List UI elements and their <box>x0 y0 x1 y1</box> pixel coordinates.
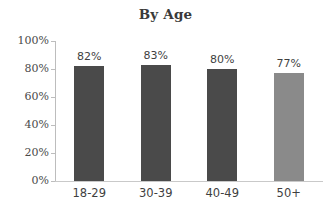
bar-value-label: 82% <box>77 50 101 63</box>
x-axis-category-label: 50+ <box>256 186 323 200</box>
y-axis-tick-mark <box>51 69 55 70</box>
bar-chart: By Age 0%20%40%60%80%100% 82%83%80%77% 1… <box>0 0 331 219</box>
y-axis-tick-label: 60% <box>5 90 49 103</box>
bar-value-label: 80% <box>210 53 234 66</box>
y-axis-tick-label: 80% <box>5 62 49 75</box>
x-axis-category-labels: 18-2930-3940-4950+ <box>56 186 322 210</box>
bar <box>274 73 304 181</box>
y-axis-tick-mark <box>51 97 55 98</box>
y-axis-tick-mark <box>51 181 55 182</box>
x-axis-category-label: 18-29 <box>56 186 123 200</box>
bar <box>141 65 171 181</box>
bar <box>74 66 104 181</box>
bar-value-label: 83% <box>144 49 168 62</box>
bar-group: 83% <box>123 41 190 181</box>
y-axis-tick-mark <box>51 153 55 154</box>
bar-group: 82% <box>56 41 123 181</box>
plot-area: 82%83%80%77% <box>56 41 322 181</box>
x-axis-category-label: 40-49 <box>189 186 256 200</box>
bar-value-label: 77% <box>277 57 301 70</box>
chart-title: By Age <box>0 6 331 22</box>
y-axis-tick-label: 40% <box>5 118 49 131</box>
bar <box>207 69 237 181</box>
x-axis-line <box>55 181 323 182</box>
y-axis-tick-label: 0% <box>5 174 49 187</box>
y-axis-tick-label: 100% <box>5 34 49 47</box>
y-axis-tick-mark <box>51 125 55 126</box>
y-axis-tick-label: 20% <box>5 146 49 159</box>
bar-group: 77% <box>256 41 323 181</box>
y-axis-tick-mark <box>51 41 55 42</box>
y-axis-labels: 0%20%40%60%80%100% <box>0 0 49 219</box>
bar-group: 80% <box>189 41 256 181</box>
x-axis-category-label: 30-39 <box>123 186 190 200</box>
